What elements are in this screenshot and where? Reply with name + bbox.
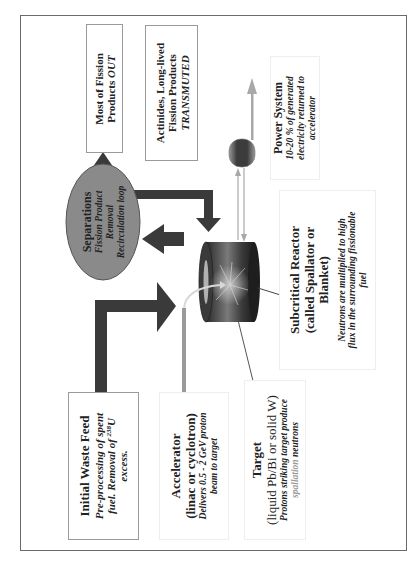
separations-line1: Fission Product: [95, 168, 106, 276]
target-box: Target (liquid Pb/Bi or solid W) Protons…: [244, 380, 306, 540]
fission-out-line2-text: Products: [105, 77, 117, 122]
transmuted-box: Actinides, Long-lived Fission Products T…: [145, 25, 198, 161]
subcritical-desc3: fuel: [357, 192, 368, 368]
separations-line3: Recirculation loop: [116, 168, 127, 276]
subcritical-desc1: Neutrons are multiplied to high: [336, 192, 347, 368]
waste-feed-isotope-mass: 238: [104, 426, 112, 437]
power-system-line3: accelerator: [307, 58, 318, 178]
waste-feed-title: Initial Waste Feed: [78, 394, 93, 538]
subcritical-reactor-box: Subcritical Reactor (called Spallator or…: [279, 190, 376, 370]
accelerator-line2: beam to target: [209, 394, 220, 538]
arrow-reactor-to-separations: [142, 224, 184, 254]
target-line2-text: neutrons: [290, 422, 300, 459]
arrow-power-out: [247, 78, 257, 140]
accelerator-subtitle: (linac or cyclotron): [183, 394, 198, 538]
fission-out-emphasis: OUT: [105, 55, 117, 78]
fission-out-line1: Most of Fission: [92, 26, 104, 151]
separations-title: Separations: [81, 168, 94, 276]
separations-label: Separations Fission Product Removal Reci…: [68, 166, 140, 278]
power-system-title: Power System: [272, 58, 285, 178]
target-pointer-line: [238, 320, 254, 385]
waste-feed-line2: fuel. Removal of 238U: [105, 394, 117, 538]
separations-line2: Removal: [105, 168, 116, 276]
target-line1: Protons striking target produce: [279, 382, 290, 538]
power-capsule: [229, 139, 255, 167]
waste-feed-line1: Pre-processing of spent: [92, 394, 104, 538]
target-line2: spallation neutrons: [290, 382, 301, 538]
target-spallation-word: spallation: [290, 459, 300, 498]
power-system-box: Power System 10-20 % of generated electr…: [270, 56, 320, 180]
power-system-line2: electricity returned to: [296, 58, 307, 178]
accelerator-line1: Delivers 0.5 - 2 GeV proton: [198, 394, 209, 538]
subcritical-desc2: flux in the surrounding fissionable: [347, 192, 358, 368]
arrow-recirculation-to-reactor: [130, 190, 221, 232]
transmuted-line2: Fission Products: [165, 27, 177, 159]
arrow-waste-feed-to-reactor: [95, 282, 176, 392]
subcritical-title1: Subcritical Reactor: [287, 192, 302, 368]
target-subtitle: (liquid Pb/Bi or solid W): [264, 382, 279, 538]
power-lines: [235, 168, 247, 242]
transmuted-line1: Actinides, Long-lived: [153, 27, 165, 159]
fission-out-line2: Products OUT: [105, 26, 117, 151]
waste-feed-isotope-symbol: U: [105, 418, 117, 426]
waste-feed-line3: excess.: [117, 394, 129, 538]
initial-waste-feed-box: Initial Waste Feed Pre-processing of spe…: [68, 392, 139, 540]
accelerator-title: Accelerator: [169, 394, 184, 538]
accelerator-box: Accelerator (linac or cyclotron) Deliver…: [159, 392, 229, 540]
waste-feed-line2-text: fuel. Removal of: [105, 436, 117, 514]
subcritical-reactor-cylinder: [199, 242, 260, 322]
subcritical-title3: Blanket): [316, 192, 331, 368]
power-system-line1: 10-20 % of generated: [286, 58, 297, 178]
target-title: Target: [250, 382, 265, 538]
transmuted-line3: TRANSMUTED: [178, 27, 190, 159]
subcritical-title2: (called Spallator or: [302, 192, 317, 368]
fission-products-out-box: Most of Fission Products OUT: [86, 24, 123, 153]
